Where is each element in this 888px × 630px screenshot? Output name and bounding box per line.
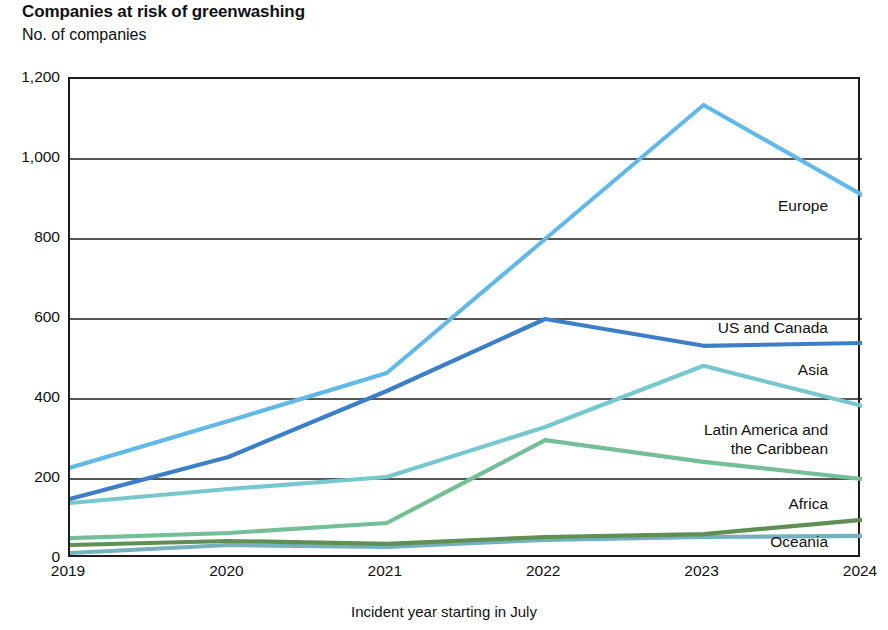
series-label-oceania: Oceania	[690, 532, 828, 551]
y-axis-tick-label: 1,200	[2, 68, 60, 86]
y-axis-tick-label: 800	[2, 228, 60, 246]
x-axis-tick-label: 2024	[843, 562, 877, 580]
x-axis-tick-label: 2022	[526, 562, 560, 580]
y-axis-tick-label: 400	[2, 388, 60, 406]
series-label-asia: Asia	[703, 360, 828, 379]
y-axis-tick-label: 600	[2, 308, 60, 326]
page-title: Companies at risk of greenwashing	[22, 2, 305, 22]
series-label-europe: Europe	[703, 196, 828, 215]
series-line-us-and-canada	[70, 319, 862, 499]
x-axis-title: Incident year starting in July	[0, 603, 888, 620]
plot-area	[68, 77, 860, 557]
x-axis-tick-label: 2021	[368, 562, 402, 580]
y-axis-labels: 02004006008001,0001,200	[0, 77, 60, 557]
x-axis-tick-label: 2023	[684, 562, 718, 580]
series-label-latin-america-line1: Latin America and	[628, 420, 828, 439]
x-axis-tick-label: 2020	[209, 562, 243, 580]
series-label-africa: Africa	[703, 494, 828, 513]
chart-subtitle: No. of companies	[22, 26, 147, 44]
series-label-us-and-canada: US and Canada	[643, 318, 828, 337]
y-axis-tick-label: 200	[2, 468, 60, 486]
series-label-latin-america-line2: the Caribbean	[628, 439, 828, 458]
y-axis-tick-label: 1,000	[2, 148, 60, 166]
x-axis-labels: 201920202021202220232024	[0, 562, 888, 588]
x-axis-tick-label: 2019	[51, 562, 85, 580]
